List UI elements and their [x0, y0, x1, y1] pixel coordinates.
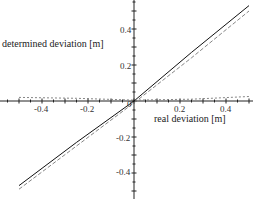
x-tick-label: -0.4: [34, 104, 48, 114]
y-tick-label: 0.2: [120, 61, 131, 71]
origin-label: 0: [127, 99, 132, 109]
x-tick-label: -0.2: [80, 104, 94, 114]
x-tick-label: 0.4: [220, 104, 231, 114]
x-tick-label: 0.2: [174, 104, 185, 114]
y-axis-label: determined deviation [m]: [2, 38, 104, 49]
y-tick-label: -0.2: [116, 133, 130, 143]
y-tick-label: -0.4: [116, 167, 130, 177]
x-axis-label: real deviation [m]: [154, 113, 226, 124]
y-tick-label: 0.4: [120, 25, 131, 35]
